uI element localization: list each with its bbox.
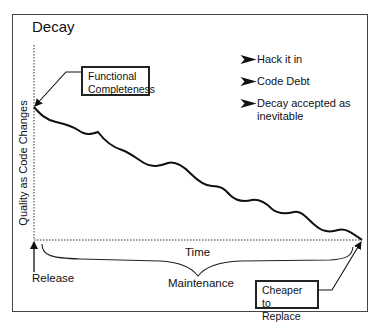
callout-line: to Replace: [262, 297, 312, 323]
ctr-callout-arrow: [319, 242, 361, 290]
bullet-item: Hack it in: [240, 53, 370, 66]
y-axis-label: Quality as Code Changes: [17, 100, 29, 225]
bullet-label: Hack it in: [257, 53, 302, 66]
arrowhead-bullet-icon: [240, 55, 257, 64]
callout-line: Cheaper: [262, 284, 312, 297]
arrowhead-bullet-icon: [240, 77, 257, 86]
callout-line: Functional: [88, 70, 143, 83]
x-axis-label: Time: [185, 246, 210, 258]
bullet-item: Decay accepted as inevitable: [240, 97, 370, 123]
bullet-label: Decay accepted as inevitable: [257, 97, 370, 123]
functional-completeness-callout: Functional Completeness: [81, 66, 150, 96]
cheaper-to-replace-callout: Cheaper to Replace: [255, 280, 319, 309]
fc-callout-arrow: [35, 72, 81, 106]
maintenance-label: Maintenance: [168, 277, 234, 289]
bullet-item: Code Debt: [240, 75, 370, 88]
arrowhead-bullet-icon: [240, 99, 257, 108]
callout-line: Completeness: [88, 83, 143, 96]
diagram-title: Decay: [32, 18, 75, 35]
release-label: Release: [32, 272, 74, 284]
bullet-list: Hack it in Code Debt Decay accepted as i…: [240, 53, 370, 132]
bullet-label: Code Debt: [257, 75, 310, 88]
